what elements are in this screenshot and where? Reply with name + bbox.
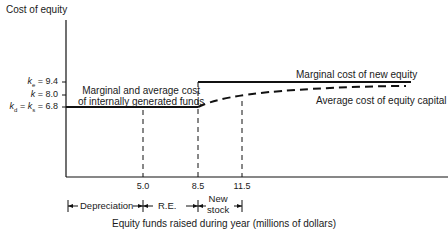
ytick-ke: ke = 9.4 (0, 76, 58, 88)
xtick-5: 5.0 (128, 181, 158, 191)
ytick-k: k = 8.0 (0, 89, 58, 99)
y-axis-title: Cost of equity (6, 4, 67, 15)
segment-new-stock: New stock (207, 193, 229, 215)
segment-depreciation: Depreciation (80, 200, 133, 211)
xtick-11-5: 11.5 (227, 181, 257, 191)
ytick-kd-ks: kd = ks = 6.8 (0, 101, 58, 113)
xtick-8-5: 8.5 (183, 181, 213, 191)
annotation-internal-funds: Marginal and average cost of internally … (78, 85, 204, 107)
x-axis-title: Equity funds raised during year (million… (0, 218, 448, 229)
annotation-average-cost: Average cost of equity capital (316, 95, 446, 106)
segment-re: R.E. (158, 200, 176, 211)
annotation-marginal-new-equity: Marginal cost of new equity (296, 69, 417, 80)
